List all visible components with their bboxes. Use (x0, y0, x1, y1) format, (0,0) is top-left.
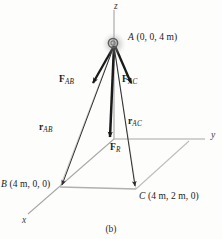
node-a-marker (102, 32, 126, 56)
vector-label-f-ac: FAC (122, 75, 138, 85)
r-ab-subscript: AB (43, 126, 52, 134)
f-ab-subscript: AB (65, 78, 74, 86)
point-label-c: C (4 m, 2 m, 0) (139, 192, 199, 202)
figure-container: z y x A (0, 0, 4 m) B (4 m, 0, 0) C (4 m… (0, 0, 222, 239)
vector-f-r (110, 46, 114, 137)
point-b-coords: (4 m, 0, 0) (9, 179, 50, 189)
point-label-a: A (0, 0, 4 m) (128, 33, 177, 43)
axis-label-z: z (114, 2, 118, 12)
vector-label-f-r: FR (110, 143, 121, 153)
axis-label-y: y (211, 131, 215, 141)
vector-label-r-ac: rAC (128, 117, 142, 127)
vector-label-r-ab: rAB (39, 123, 53, 133)
vector-r-ab (62, 46, 114, 185)
point-a-coords: (0, 0, 4 m) (136, 32, 177, 42)
f-ac-subscript: AC (128, 78, 138, 86)
vector-diagram-svg (0, 0, 222, 239)
f-r-subscript: R (116, 146, 121, 154)
r-ac-subscript: AC (132, 120, 142, 128)
figure-caption: (b) (0, 224, 222, 234)
point-label-b: B (4 m, 0, 0) (1, 180, 50, 190)
point-c-coords: (4 m, 2 m, 0) (148, 191, 199, 201)
vector-label-f-ab: FAB (59, 75, 74, 85)
